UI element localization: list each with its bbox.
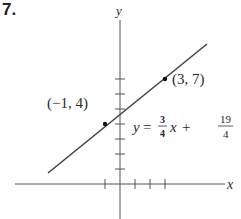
point-label-3-7: (3, 7) (172, 71, 205, 88)
svg-text:3: 3 (160, 114, 165, 125)
equation-label: y = 3 4 x + 19 4 (131, 113, 233, 140)
point-label-neg1-4: (−1, 4) (47, 95, 88, 112)
x-axis-label: x (226, 177, 234, 192)
y-axis-label: y (114, 3, 122, 18)
point-neg1-4 (103, 122, 107, 126)
graph: 7. y x (3, 7) (−1, 4) y = 3 4 x + 19 (0, 0, 241, 219)
svg-text:=: = (143, 119, 151, 135)
problem-number: 7. (2, 0, 16, 19)
point-3-7 (163, 77, 167, 81)
svg-text:y: y (131, 119, 140, 135)
svg-text:19: 19 (220, 113, 232, 125)
svg-text:+: + (182, 119, 190, 135)
svg-text:x: x (169, 119, 177, 135)
svg-text:4: 4 (160, 128, 165, 139)
svg-text:4: 4 (223, 128, 229, 140)
